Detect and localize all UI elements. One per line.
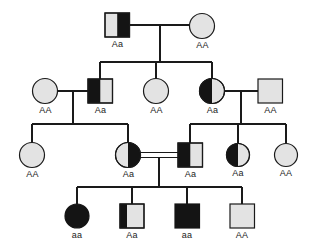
individual-II-2-male-carrier[interactable] (88, 79, 113, 103)
half-fill-left (199, 79, 212, 104)
genotype-label-III-1: AA (20, 169, 45, 179)
individual-II-5-male-unaffected[interactable] (258, 79, 283, 103)
individual-III-2-female-carrier[interactable] (116, 143, 141, 168)
circle-symbol (33, 79, 58, 104)
genotype-label-IV-3: aa (175, 230, 199, 240)
genotype-label-IV-2: Aa (120, 230, 144, 240)
individual-III-3-male-carrier[interactable] (178, 143, 203, 167)
genotype-label-II-3: AA (144, 105, 169, 115)
square-symbol (258, 79, 283, 103)
genotype-label-IV-1: aa (65, 230, 89, 240)
circle-symbol-filled (65, 204, 89, 228)
pedigree-diagram-svg (0, 0, 315, 250)
half-fill-left (88, 79, 100, 103)
circle-symbol (144, 79, 169, 104)
half-fill-left (227, 144, 239, 167)
pedigree-chart: Aa AA AA Aa AA Aa AA AA Aa Aa Aa AA aa A… (0, 0, 315, 250)
genotype-label-I-1: Aa (105, 39, 130, 49)
individual-IV-1-female-affected[interactable] (65, 204, 89, 228)
individual-III-1-female-unaffected[interactable] (20, 143, 45, 168)
genotype-label-IV-4: AA (230, 230, 254, 240)
genotype-label-III-4: Aa (226, 168, 250, 178)
individual-I-2-female-unaffected[interactable] (190, 14, 215, 39)
half-fill-right (128, 143, 141, 168)
individual-I-1-male-carrier[interactable] (105, 13, 130, 37)
circle-symbol (20, 143, 45, 168)
genotype-label-II-2: Aa (88, 105, 113, 115)
genotype-label-III-2: Aa (116, 169, 141, 179)
genotype-label-II-5: AA (258, 105, 283, 115)
genotype-label-II-1: AA (33, 105, 58, 115)
half-fill-left (178, 143, 190, 167)
square-symbol (230, 204, 255, 228)
half-fill-left (120, 204, 127, 228)
individual-II-3-female-unaffected[interactable] (144, 79, 169, 104)
genotype-label-III-3: Aa (178, 169, 203, 179)
individual-IV-4-male-unaffected[interactable] (230, 204, 255, 228)
genotype-label-I-2: AA (190, 40, 215, 50)
square-symbol-filled (175, 204, 200, 228)
half-fill-right (117, 13, 129, 37)
individual-IV-3-male-affected[interactable] (175, 204, 200, 228)
individual-II-1-female-unaffected[interactable] (33, 79, 58, 104)
genotype-label-II-4: Aa (200, 105, 225, 115)
individual-II-4-female-carrier[interactable] (199, 79, 224, 104)
individual-III-5-female-unaffected[interactable] (275, 144, 298, 167)
generation-IV-symbols (65, 204, 255, 228)
individual-IV-2-male-carrier[interactable] (120, 204, 144, 228)
individual-III-4-female-carrier[interactable] (227, 144, 250, 167)
circle-symbol (190, 14, 215, 39)
genotype-label-III-5: AA (274, 168, 298, 178)
circle-symbol (275, 144, 298, 167)
